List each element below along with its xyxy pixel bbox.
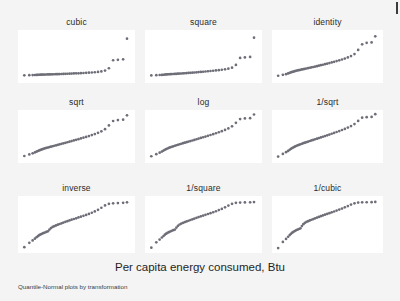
- plot-cell-sqrt: sqrt: [18, 97, 135, 163]
- gladder-figure: cubic square identity sqrt log 1/sqrt in…: [0, 0, 400, 301]
- plot-panel-inverse: [18, 196, 135, 253]
- plot-panel-inv-cubic: [272, 196, 383, 253]
- plot-cell-cubic: cubic: [18, 17, 135, 83]
- plot-title-log: log: [145, 97, 262, 107]
- plot-title-inverse: inverse: [18, 183, 135, 193]
- plot-title-inv-cubic: 1/cubic: [272, 183, 383, 193]
- plot-cell-inv-sqrt: 1/sqrt: [272, 97, 383, 163]
- panel-grid: cubic square identity sqrt log 1/sqrt in…: [0, 0, 400, 301]
- plot-panel-log: [145, 110, 262, 163]
- plot-cell-inv-square: 1/square: [145, 183, 262, 253]
- plot-cell-inverse: inverse: [18, 183, 135, 253]
- plot-panel-square: [145, 30, 262, 83]
- plot-cell-identity: identity: [272, 17, 383, 83]
- plot-panel-inv-sqrt: [272, 110, 383, 163]
- plot-title-cubic: cubic: [18, 17, 135, 27]
- plot-cell-inv-cubic: 1/cubic: [272, 183, 383, 253]
- plot-cell-square: square: [145, 17, 262, 83]
- plot-panel-sqrt: [18, 110, 135, 163]
- plot-panel-inv-square: [145, 196, 262, 253]
- plot-title-inv-square: 1/square: [145, 183, 262, 193]
- plot-title-sqrt: sqrt: [18, 97, 135, 107]
- plot-panel-identity: [272, 30, 383, 83]
- plot-panel-cubic: [18, 30, 135, 83]
- figure-note: Quantile-Normal plots by transformation: [18, 283, 127, 290]
- plot-title-identity: identity: [272, 17, 383, 27]
- x-axis-title: Per capita energy consumed, Btu: [0, 261, 400, 273]
- window-edge-artifact: [396, 2, 398, 14]
- plot-cell-log: log: [145, 97, 262, 163]
- plot-title-inv-sqrt: 1/sqrt: [272, 97, 383, 107]
- plot-title-square: square: [145, 17, 262, 27]
